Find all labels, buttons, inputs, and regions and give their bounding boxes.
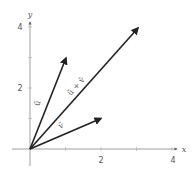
x-tick-label-4: 4 <box>170 156 175 165</box>
x-tick-label-2: 2 <box>98 156 103 165</box>
y-axis-label: y <box>27 10 33 19</box>
x-axis-label: x <box>182 145 187 154</box>
vector-u-plus-v-arrow <box>30 28 138 149</box>
vector-v-label: v̄ <box>56 120 65 131</box>
vectors <box>30 28 138 149</box>
vector-addition-diagram: 2 4 2 4 x y ū ū + v̄ v̄ <box>0 0 196 173</box>
vector-u-plus-v-label: ū + v̄ <box>66 75 87 97</box>
axes: 2 4 2 4 x y <box>12 10 187 166</box>
vector-u-label: ū <box>33 99 43 107</box>
y-tick-label-4: 4 <box>17 23 22 32</box>
y-tick-label-2: 2 <box>17 84 22 93</box>
